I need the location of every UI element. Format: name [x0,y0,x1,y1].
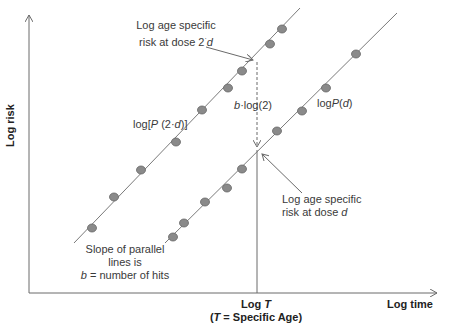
data-point [198,106,207,114]
data-point [110,193,119,201]
upper-risk-annotation: Log age specific risk at dose 2·d [126,19,226,49]
lower-line-label: logP(d) [317,97,353,110]
diagram-canvas [0,0,449,334]
upper-risk-line2: risk at dose 2 [139,36,204,48]
lower-risk-arrow [262,154,302,193]
d-var: d [341,206,347,218]
data-point [238,165,247,173]
specific-age-label: Log T (T = Specific Age) [196,298,316,324]
data-point [169,233,178,241]
label-part: (2· [158,118,175,130]
data-point [322,84,331,92]
data-point [266,40,275,48]
x-axis-label: Log time [387,298,433,311]
slope-line1: Slope of parallel [70,243,180,256]
lower-risk-line1: Log age specific [282,193,362,206]
slope-annotation: Slope of parallel lines is b = number of… [70,243,180,282]
label-part: log [317,97,332,109]
y-axis-label: Log risk [4,104,16,147]
data-point [278,25,287,33]
specific-age-text: = Specific Age) [220,311,302,323]
lower-risk-line2: risk at dose [282,206,341,218]
upper-risk-line1: Log age specific [126,19,226,32]
label-part: )] [181,118,188,130]
d-var: d [207,36,213,48]
data-point [88,224,97,232]
data-point [238,67,247,75]
slope-line2: lines is [70,256,180,269]
slope-line3: = number of hits [87,269,169,281]
data-point [223,184,232,192]
label-part: P [151,118,158,130]
upper-risk-arrow [206,47,253,60]
label-part: P [332,97,339,109]
data-point [273,127,282,135]
label-part: ) [349,97,353,109]
gap-label: b·log(2) [234,99,272,112]
upper-line-label: log[P (2·d)] [133,118,187,131]
label-part: log[ [133,118,151,130]
lower-risk-annotation: Log age specific risk at dose d [282,193,362,219]
data-point [201,198,210,206]
gap-rest: ·log(2) [240,99,272,111]
log-t-prefix: Log [241,298,264,310]
data-point [224,84,233,92]
data-point [298,107,307,115]
data-point [352,50,361,58]
log-t-var: T [264,298,271,310]
data-point [180,219,189,227]
data-point [172,138,181,146]
data-point [137,166,146,174]
